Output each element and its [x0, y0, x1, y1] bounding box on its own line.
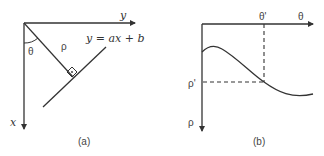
theta-label: θ — [28, 46, 34, 57]
theta-arc — [24, 38, 38, 43]
hough-transform-diagram: y x y = ax + b ρ θ (a) θ' θ ρ' ρ (b) — [0, 0, 324, 156]
line-equation-label: y = ax + b — [85, 32, 144, 45]
rho-prime-label: ρ' — [188, 78, 196, 89]
rho-axis-label: ρ — [188, 117, 194, 128]
y-axis-label: y — [119, 9, 127, 22]
rho-label: ρ — [61, 41, 67, 52]
x-axis-label: x — [10, 116, 17, 129]
theta-axis-label: θ — [298, 11, 304, 22]
sinusoid-curve — [202, 46, 313, 95]
theta-prime-label: θ' — [259, 11, 267, 22]
target-line — [43, 47, 106, 107]
panel-b: θ' θ ρ' ρ (b) — [188, 11, 313, 147]
caption-a: (a) — [78, 136, 90, 147]
panel-a: y x y = ax + b ρ θ (a) — [10, 9, 144, 147]
caption-b: (b) — [253, 136, 265, 147]
